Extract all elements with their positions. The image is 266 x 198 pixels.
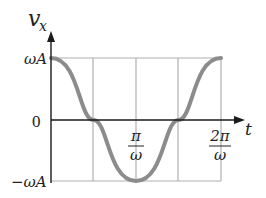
x-axis-arrow-icon [234, 116, 245, 124]
velocity-graph: v x ωA 0 −ωA π ω 2π ω t [0, 0, 266, 198]
y-tick-top: ωA [24, 50, 47, 68]
y-axis-label-subscript: x [39, 18, 47, 34]
y-tick-bottom: −ωA [11, 173, 47, 191]
y-tick-zero: 0 [32, 112, 41, 131]
x-axis-label: t [245, 119, 252, 139]
x-tick1-denominator: ω [130, 146, 142, 164]
x-tick2-numerator: 2π [209, 127, 231, 145]
x-tick1-numerator: π [130, 127, 142, 145]
y-axis-arrow-icon [47, 31, 55, 42]
x-tick2-denominator: ω [214, 146, 226, 164]
